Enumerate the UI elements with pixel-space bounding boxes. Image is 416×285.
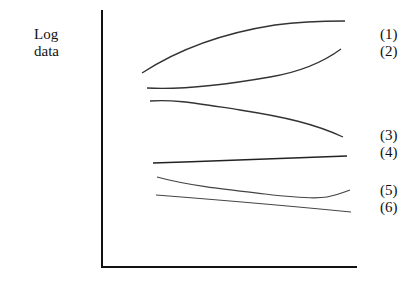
series-line-1 [142, 21, 345, 73]
series-label-4: (4) [380, 144, 398, 161]
series-label-3: (3) [380, 127, 398, 144]
series-line-3 [150, 101, 343, 137]
series-label-6: (6) [380, 199, 398, 216]
series-label-2: (2) [380, 43, 398, 60]
series-line-5 [157, 177, 350, 198]
series-label-5: (5) [380, 182, 398, 199]
y-axis-label-line-1: Log [34, 26, 59, 43]
series-line-2 [147, 49, 341, 88]
series-line-4 [153, 156, 347, 163]
y-axis-label-line-2: data [34, 43, 59, 60]
line-chart [0, 0, 416, 285]
series-label-1: (1) [380, 26, 398, 43]
y-axis-label: Log data [34, 26, 59, 60]
